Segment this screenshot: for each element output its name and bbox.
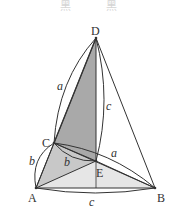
edge-label-CE: b xyxy=(64,155,70,169)
arc-AB xyxy=(36,188,155,193)
edge-label-AC: b xyxy=(29,154,35,168)
vertex-C-dot xyxy=(53,142,56,145)
label-B: B xyxy=(157,191,165,205)
edge-label-EB: a xyxy=(111,146,117,160)
label-E: E xyxy=(96,166,103,180)
tetrahedron-diagram: D C E A B a c b b a c xyxy=(0,0,180,219)
label-A: A xyxy=(28,191,37,205)
label-C: C xyxy=(42,136,50,150)
vertex-B-dot xyxy=(154,187,157,190)
edge-label-DC: a xyxy=(57,79,63,93)
vertex-E-dot xyxy=(95,160,98,163)
edge-label-DE: c xyxy=(106,99,112,113)
vertex-A-dot xyxy=(35,187,38,190)
edge-label-AB: c xyxy=(89,195,95,209)
face-DCE xyxy=(54,38,96,161)
label-D: D xyxy=(91,24,100,38)
